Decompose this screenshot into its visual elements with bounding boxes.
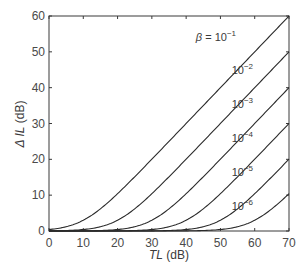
curve-label-4: 10−4 xyxy=(232,130,254,144)
x-tick-label: 20 xyxy=(111,236,125,250)
curve-label-6: 10−6 xyxy=(232,198,254,212)
y-tick-label: 20 xyxy=(32,152,46,166)
curve-5 xyxy=(49,159,289,231)
curve-6 xyxy=(49,194,289,231)
x-tick-label: 50 xyxy=(214,236,228,250)
curve-label-1: β = 10−1 xyxy=(195,29,237,43)
y-axis-title: Δ IL (dB) xyxy=(13,101,27,149)
y-tick-label: 40 xyxy=(32,81,46,95)
x-tick-label: 60 xyxy=(248,236,262,250)
x-tick-label: 10 xyxy=(77,236,91,250)
y-tick-label: 30 xyxy=(32,117,46,131)
curve-label-3: 10−3 xyxy=(232,96,254,110)
x-axis-ticks: 010203040506070 xyxy=(46,16,296,250)
curves xyxy=(49,16,289,231)
y-tick-label: 60 xyxy=(32,9,46,23)
y-tick-label: 0 xyxy=(38,224,45,238)
curve-label-5: 10−5 xyxy=(232,164,254,178)
plot-frame xyxy=(49,16,289,231)
y-tick-label: 50 xyxy=(32,45,46,59)
plot-border xyxy=(49,16,289,231)
curve-label-2: 10−2 xyxy=(232,62,254,76)
y-tick-label: 10 xyxy=(32,188,46,202)
curve-labels: β = 10−110−210−310−410−510−6 xyxy=(195,29,254,212)
x-axis-title: TL (dB) xyxy=(149,248,189,262)
chart: 010203040506070 0102030405060 β = 10−110… xyxy=(0,0,307,274)
x-tick-label: 0 xyxy=(46,236,53,250)
curve-3 xyxy=(49,88,289,231)
x-tick-label: 70 xyxy=(282,236,296,250)
curve-1 xyxy=(49,16,289,230)
